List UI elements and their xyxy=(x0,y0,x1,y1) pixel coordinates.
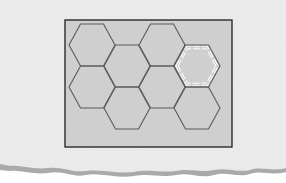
hex-grid-diagram xyxy=(0,0,286,183)
figure-canvas xyxy=(0,0,286,183)
